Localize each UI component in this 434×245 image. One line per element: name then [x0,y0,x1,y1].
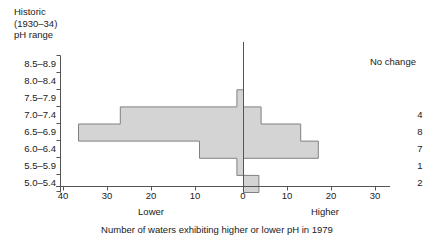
chart-plot-area [0,0,434,245]
chart-caption: Number of waters exhibiting higher or lo… [0,224,434,235]
y-axis [57,56,61,193]
xtick-label-3: 10 [183,190,207,201]
xtick-label-6: 20 [319,190,343,201]
ph-change-chart: Historic (1930–34) pH range No change 8.… [0,0,434,245]
xtick-label-0: 40 [51,190,75,201]
diverging-bar-shape [79,56,319,193]
xtick-label-2: 20 [139,190,163,201]
lower-direction-label: Lower [121,206,181,217]
higher-direction-label: Higher [295,206,355,217]
bars-group [79,56,319,193]
xtick-label-4: 0 [231,190,255,201]
xtick-label-5: 10 [275,190,299,201]
xtick-label-1: 30 [95,190,119,201]
xtick-label-7: 30 [363,190,387,201]
